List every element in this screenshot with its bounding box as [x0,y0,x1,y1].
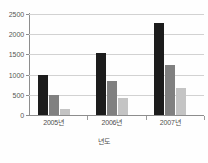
y-tick-label: 1500 [9,51,24,58]
bar [49,95,59,115]
bar [165,65,175,115]
bar-group [96,14,128,115]
y-tick-mark [26,95,29,96]
y-tick-label: 500 [13,91,24,98]
y-tick-mark [26,34,29,35]
bar [107,81,117,115]
bar [96,53,106,115]
x-tick-label: 2006년 [102,119,123,127]
bar [118,98,128,115]
bar-group [154,14,186,115]
x-tick-mark [87,116,88,120]
bar-group [38,14,70,115]
y-tick-mark [26,75,29,76]
x-tick-mark [204,116,205,120]
y-tick-label: 0 [20,112,24,119]
plot-area: 05001000150020002500 [29,14,204,115]
y-tick-label: 1000 [9,71,24,78]
y-tick-label: 2000 [9,31,24,38]
x-tick-label: 2007년 [160,119,181,127]
bar-chart: 05001000150020002500 2005년2006년2007년 년도 [0,0,208,163]
bar [176,88,186,115]
y-tick-mark [26,115,29,116]
bar [38,75,48,115]
y-tick-mark [26,14,29,15]
y-tick-mark [26,54,29,55]
x-tick-label: 2005년 [43,119,64,127]
bar [60,109,70,115]
x-tick-mark [146,116,147,120]
bar [154,23,164,115]
x-axis-title: 년도 [0,138,208,146]
y-tick-label: 2500 [9,11,24,18]
x-axis-line [29,115,204,116]
